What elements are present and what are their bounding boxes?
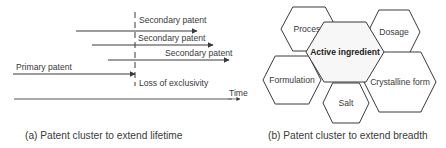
caption-a: (a) Patent cluster to extend lifetime xyxy=(25,130,183,141)
active-ingredient-label: Active ingredient xyxy=(310,47,380,57)
primary-patent-label: Primary patent xyxy=(16,62,72,72)
panel-a-lifetime: Secondary patentSecondary patentSecondar… xyxy=(13,12,248,141)
caption-b: (b) Patent cluster to extend breadth xyxy=(268,130,428,141)
loss-of-exclusivity-label: Loss of exclusivity xyxy=(139,78,209,88)
hexagon-label: Dosage xyxy=(379,27,409,37)
secondary-patent-label: Secondary patent xyxy=(138,33,206,43)
time-axis-label: Time xyxy=(229,88,248,98)
hexagon-label: Salt xyxy=(339,98,354,108)
secondary-patent-label: Secondary patent xyxy=(139,15,207,25)
secondary-patent-label: Secondary patent xyxy=(165,48,233,58)
hexagon-label: Formulation xyxy=(269,75,315,85)
patent-cluster-figure: Secondary patentSecondary patentSecondar… xyxy=(0,0,446,148)
hexagon-label: Crystalline form xyxy=(370,77,430,87)
panel-b-breadth: ProcessDosageFormulationCrystalline form… xyxy=(263,7,436,141)
